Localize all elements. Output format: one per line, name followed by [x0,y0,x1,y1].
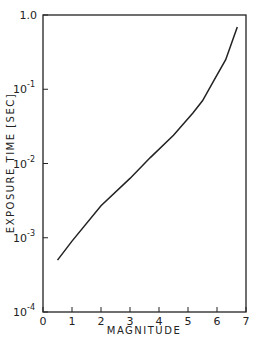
chart: 01234567 10-410-310-210-11.0 MAGNITUDE E… [0,0,256,342]
x-tick-label: 2 [98,315,105,328]
x-tick-label: 6 [214,315,221,328]
y-axis-label: EXPOSURE TIME [SEC] [5,93,16,233]
data-line [58,27,238,260]
x-tick-label: 5 [185,315,192,328]
y-tick-label: 10-3 [13,229,35,245]
x-tick-label: 0 [40,315,47,328]
y-tick-label: 1.0 [20,9,38,22]
x-axis-label: MAGNITUDE [107,325,181,336]
y-tick-label: 10-2 [13,155,35,171]
x-tick-label: 1 [69,315,76,328]
x-tick-label: 7 [243,315,250,328]
y-tick-label: 10-1 [13,80,35,96]
y-tick-label: 10-4 [13,303,35,319]
